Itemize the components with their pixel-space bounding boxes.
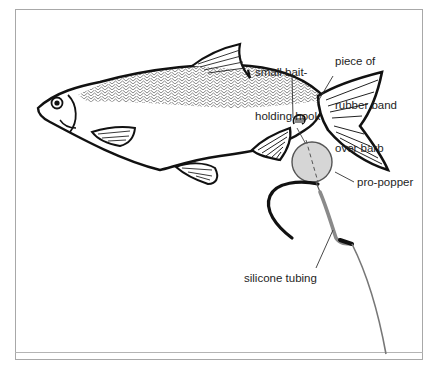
- pro-popper-icon: [292, 140, 332, 182]
- label-pro-popper: pro-popper: [357, 175, 413, 190]
- silicone-tubing-icon: [320, 192, 352, 244]
- label-bait-hook-line1: small bait-: [255, 65, 320, 80]
- label-silicone-tubing: silicone tubing: [244, 271, 317, 286]
- label-rubber-band-line2: rubber band: [335, 98, 397, 113]
- label-bait-hook-line2: holding hook: [255, 109, 320, 124]
- label-rubber-band: piece of rubber band over barb: [335, 25, 397, 170]
- label-bait-hook: small bait- holding hook: [255, 36, 320, 138]
- hook-icon: [268, 182, 318, 238]
- leader-silicone-tubing: [316, 230, 333, 268]
- label-rubber-band-line1: piece of: [335, 54, 397, 69]
- fishing-line-icon: [352, 244, 386, 354]
- leader-pro-popper: [335, 172, 354, 182]
- label-rubber-band-line3: over barb: [335, 141, 397, 156]
